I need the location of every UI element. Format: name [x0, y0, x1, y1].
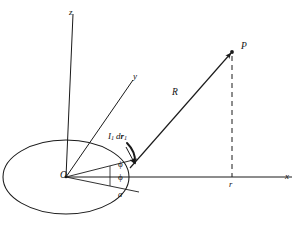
x-axis-label: x: [285, 172, 289, 181]
origin-label: O: [60, 171, 67, 181]
diagram-canvas: [0, 0, 299, 229]
field-point-label: P: [241, 42, 247, 52]
R-vector-label: R: [172, 88, 178, 98]
phi-upper-label: ϕ: [118, 160, 123, 169]
current-element-sub-r1: 1: [124, 134, 127, 141]
phi-lower-label: ϕ: [118, 173, 123, 182]
physics-diagram-figure: z y x O P R ϕ ϕ a r I1 dr1: [0, 0, 299, 229]
z-axis-line: [66, 14, 73, 177]
R-vector-line: [130, 53, 231, 168]
field-point-marker: [230, 50, 234, 54]
y-axis-label: y: [133, 72, 137, 81]
current-element-sub-1: 1: [111, 134, 114, 141]
current-element-label: I1 dr1: [108, 132, 127, 142]
field-distance-label: r: [229, 180, 232, 189]
z-axis-label: z: [69, 8, 73, 17]
loop-radius-label: a: [118, 190, 122, 199]
